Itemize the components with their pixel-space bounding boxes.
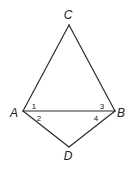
vertex-label-c: C [64,8,73,22]
vertex-label-b: B [117,106,125,120]
segment-cb [69,25,115,111]
angle-label-1: 1 [32,102,37,111]
segment-ad [23,111,69,147]
angle-label-4: 4 [94,114,99,123]
vertex-label-a: A [9,106,18,120]
segment-ca [23,25,69,111]
angle-label-3: 3 [100,102,105,111]
vertex-label-d: D [64,149,73,163]
geometry-diagram: C A B D 1 2 3 4 [0,0,134,173]
angle-label-2: 2 [37,114,42,123]
segment-bd [69,111,115,147]
